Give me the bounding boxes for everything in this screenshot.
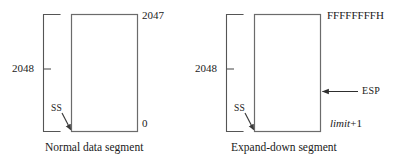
normal-segment-caption: Normal data segment (45, 142, 143, 154)
limit-italic-text: limit (330, 117, 350, 129)
normal-top-address-label: 2047 (142, 10, 164, 21)
expand-down-segment-group (227, 15, 359, 132)
normal-ss-label: SS (51, 104, 62, 114)
expand-down-segment-caption: Expand-down segment (231, 142, 337, 154)
expand-down-ss-label: SS (234, 104, 245, 114)
normal-bottom-address-label: 0 (142, 118, 148, 129)
expand-down-bottom-address-label: limit+1 (330, 118, 362, 129)
expand-down-ss-arrow (245, 113, 254, 130)
normal-segment-group (44, 15, 138, 132)
esp-label: ESP (362, 86, 380, 96)
normal-size-bracket (44, 15, 61, 132)
expand-down-size-bracket (227, 15, 244, 132)
normal-ss-arrow (62, 113, 71, 130)
segment-comparison-figure: 2048 2047 0 SS Normal data segment 2048 … (0, 0, 406, 161)
expand-down-segment-box (255, 15, 321, 132)
normal-segment-box (72, 15, 138, 132)
expand-down-top-address-label: FFFFFFFFH (327, 10, 384, 21)
expand-down-size-label: 2048 (195, 63, 217, 74)
figure-vector-layer (0, 0, 406, 161)
normal-size-label: 2048 (12, 63, 34, 74)
limit-suffix-text: +1 (350, 117, 362, 129)
